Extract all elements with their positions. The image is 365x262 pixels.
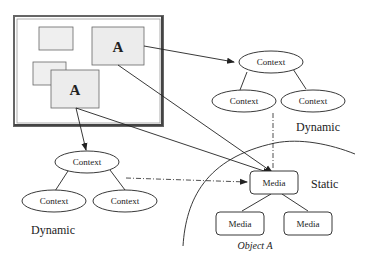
media-node-left-label: Media <box>229 219 252 229</box>
top-dynamic-label: Dynamic <box>296 120 340 134</box>
context-node-top-root-label: Context <box>257 57 286 67</box>
context-node-left-right-label: Context <box>111 196 140 206</box>
object-a-caption: Object A <box>237 240 273 251</box>
media-node-right-label: Media <box>297 219 320 229</box>
left-dynamic-label: Dynamic <box>31 223 75 237</box>
window-a-bottom: A <box>51 70 99 108</box>
context-node-top-left-label: Context <box>230 96 259 106</box>
top-context-tree: Context Context Context Dynamic <box>212 51 345 134</box>
static-label: Static <box>311 177 338 191</box>
window-a-top: A <box>92 27 144 65</box>
context-node-top-right-label: Context <box>299 96 328 106</box>
media-tree: Media Media Media Static Object A <box>216 171 338 251</box>
dashed-link-left-context-to-media <box>126 178 247 182</box>
left-context-tree: Context Context Context Dynamic <box>22 151 157 237</box>
window-a-top-label: A <box>113 39 124 55</box>
context-node-left-left-label: Context <box>40 196 69 206</box>
diagram-canvas: A A Context Context Context Dynamic Cont… <box>0 0 365 262</box>
window-small-top <box>39 27 73 50</box>
media-node-root-label: Media <box>263 178 286 188</box>
context-node-left-root-label: Context <box>73 157 102 167</box>
window-a-bottom-label: A <box>70 82 81 98</box>
